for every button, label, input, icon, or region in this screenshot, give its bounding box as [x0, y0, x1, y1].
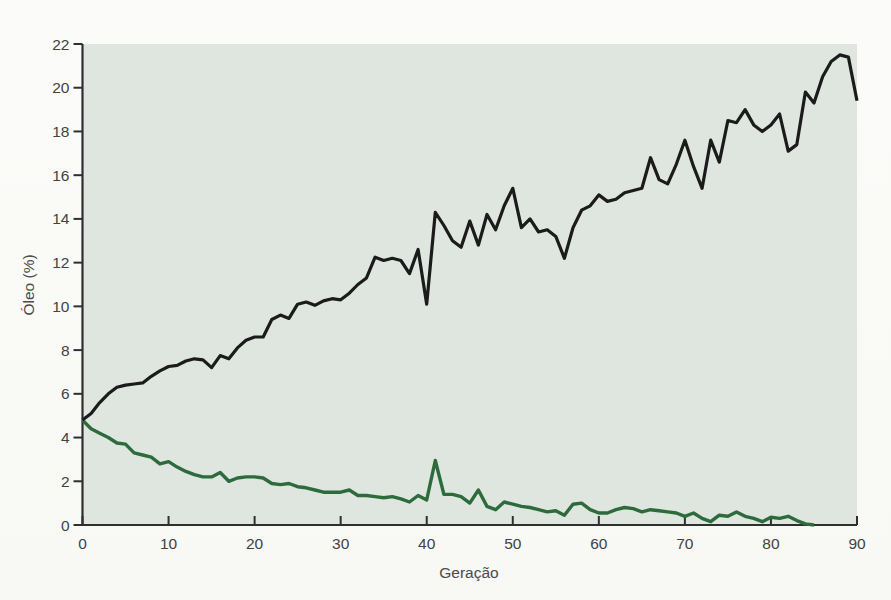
x-tick-label: 10 — [160, 535, 178, 552]
x-tick-label: 60 — [590, 535, 608, 552]
x-tick-label: 80 — [762, 535, 780, 552]
y-tick-label: 16 — [52, 167, 69, 184]
y-tick-label: 12 — [52, 254, 69, 271]
x-tick-label: 0 — [78, 535, 87, 552]
y-tick-label: 22 — [52, 36, 69, 53]
x-tick-label: 30 — [332, 535, 350, 552]
x-axis-title: Geração — [439, 564, 498, 581]
y-tick-label: 0 — [61, 517, 70, 534]
x-tick-label: 40 — [418, 535, 436, 552]
y-tick-label: 10 — [52, 298, 70, 315]
y-tick-label: 18 — [52, 123, 69, 140]
x-tick-label: 50 — [504, 535, 522, 552]
x-tick-label: 70 — [676, 535, 694, 552]
y-tick-label: 2 — [61, 473, 70, 490]
y-axis-title: Óleo (%) — [20, 254, 37, 315]
x-tick-label: 90 — [848, 535, 866, 552]
y-tick-label: 4 — [61, 429, 70, 446]
x-tick-label: 20 — [246, 535, 264, 552]
scanned-figure-page: 02468101214161820220102030405060708090 G… — [0, 0, 891, 600]
oil-percentage-by-generation-chart: 02468101214161820220102030405060708090 G… — [0, 0, 891, 600]
y-tick-label: 14 — [52, 210, 70, 227]
y-tick-label: 8 — [61, 342, 70, 359]
y-tick-label: 20 — [52, 79, 70, 96]
y-tick-label: 6 — [61, 385, 70, 402]
